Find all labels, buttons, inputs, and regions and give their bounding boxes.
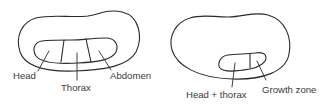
diagram-canvas: Head Thorax Abdomen Head + thorax Growth… [0,0,336,104]
embryo-outline-left [18,11,139,71]
leader-head-thorax [232,63,235,87]
embryo-growth-zone: Head + thorax Growth zone [171,14,316,100]
label-abdomen: Abdomen [110,70,151,81]
embryo-segmented: Head Thorax Abdomen [13,11,151,93]
label-thorax: Thorax [61,82,91,93]
leader-head [38,51,49,71]
germ-band [219,53,266,71]
label-head: Head [13,70,36,81]
embryo-outline-right [171,14,290,79]
label-head-thorax: Head + thorax [186,89,247,100]
segment-divider-head-thorax [61,40,64,62]
label-growth-zone: Growth zone [262,84,316,95]
segment-divider-thorax-abdomen [86,39,91,62]
